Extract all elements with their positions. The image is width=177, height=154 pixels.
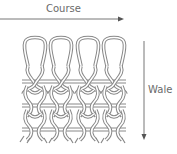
top-loops bbox=[23, 38, 126, 95]
stitch-rows bbox=[25, 86, 123, 140]
knit-diagram: Course Wale bbox=[0, 0, 177, 154]
course-arrow-icon bbox=[0, 17, 124, 22]
wale-arrow-icon bbox=[142, 41, 147, 140]
knit-loops-graphic bbox=[0, 0, 177, 154]
